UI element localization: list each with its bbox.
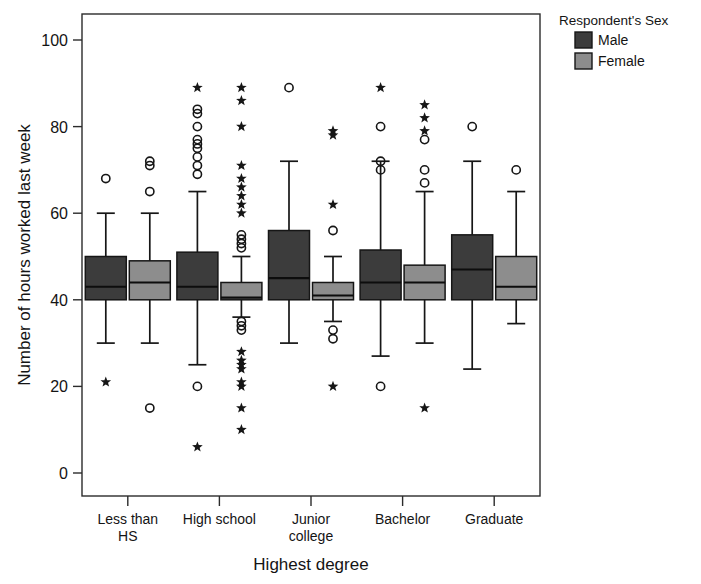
- outlier-circle: [329, 326, 337, 334]
- extreme-outlier-star: [100, 376, 111, 386]
- extreme-outlier-star: [328, 199, 339, 209]
- legend-title: Respondent's Sex: [559, 13, 668, 28]
- x-category-label: HS: [118, 528, 137, 544]
- extreme-outlier-star: [236, 424, 247, 434]
- box-body: [313, 282, 354, 299]
- boxplot-figure: 020406080100Less thanHSHigh schoolJunior…: [0, 0, 701, 584]
- outlier-circle: [468, 123, 476, 131]
- boxplot-box: [85, 174, 126, 386]
- extreme-outlier-star: [328, 381, 339, 391]
- box-body: [177, 252, 218, 300]
- outlier-circle: [146, 187, 154, 195]
- y-axis-title: Number of hours worked last week: [15, 124, 34, 386]
- extreme-outlier-star: [236, 95, 247, 105]
- extreme-outlier-star: [236, 182, 247, 192]
- boxplot-box: [496, 166, 537, 324]
- extreme-outlier-star: [236, 160, 247, 170]
- extreme-outlier-star: [236, 190, 247, 200]
- boxplot-box: [129, 157, 170, 412]
- legend-swatch-male: [575, 32, 592, 48]
- y-tick-label: 40: [50, 292, 68, 309]
- outlier-circle: [421, 166, 429, 174]
- y-tick-label: 20: [50, 378, 68, 395]
- outlier-circle: [193, 153, 201, 161]
- extreme-outlier-star: [375, 82, 386, 92]
- extreme-outlier-star: [236, 199, 247, 209]
- boxplot-box: [269, 84, 310, 344]
- box-body: [129, 261, 170, 300]
- extreme-outlier-star: [328, 130, 339, 140]
- extreme-outlier-star: [236, 121, 247, 131]
- x-axis-title: Highest degree: [253, 555, 368, 574]
- outlier-circle: [329, 335, 337, 343]
- outlier-circle: [193, 170, 201, 178]
- extreme-outlier-star: [192, 82, 203, 92]
- y-tick-label: 60: [50, 205, 68, 222]
- outlier-circle: [193, 161, 201, 169]
- extreme-outlier-star: [236, 173, 247, 183]
- outlier-circle: [193, 123, 201, 131]
- boxplot-box: [404, 99, 445, 412]
- boxplot-box: [221, 82, 262, 434]
- boxplot-box: [313, 125, 354, 391]
- outlier-circle: [102, 174, 110, 182]
- x-category-label: Junior: [292, 511, 330, 527]
- boxplot-box: [360, 82, 401, 390]
- extreme-outlier-star: [236, 363, 247, 373]
- x-category-label: High school: [183, 511, 256, 527]
- extreme-outlier-star: [419, 112, 430, 122]
- legend-label-female: Female: [598, 53, 645, 69]
- box-body: [452, 235, 493, 300]
- outlier-circle: [146, 404, 154, 412]
- legend-swatch-female: [575, 53, 592, 69]
- boxplot-box: [452, 123, 493, 370]
- y-tick-label: 80: [50, 119, 68, 136]
- box-body: [496, 257, 537, 300]
- outlier-circle: [512, 166, 520, 174]
- box-body: [269, 231, 310, 300]
- box-body: [360, 250, 401, 300]
- legend-label-male: Male: [598, 32, 629, 48]
- outlier-circle: [377, 382, 385, 390]
- y-tick-label: 0: [59, 465, 68, 482]
- outlier-circle: [329, 226, 337, 234]
- extreme-outlier-star: [192, 441, 203, 451]
- outlier-circle: [193, 382, 201, 390]
- extreme-outlier-star: [419, 402, 430, 412]
- extreme-outlier-star: [236, 346, 247, 356]
- extreme-outlier-star: [236, 381, 247, 391]
- y-tick-label: 100: [41, 32, 68, 49]
- extreme-outlier-star: [236, 208, 247, 218]
- legend: Respondent's SexMaleFemale: [559, 13, 668, 69]
- x-category-label: Bachelor: [375, 511, 431, 527]
- outlier-circle: [421, 179, 429, 187]
- outlier-circle: [421, 135, 429, 143]
- x-category-label: college: [289, 528, 334, 544]
- boxplot-box: [177, 82, 218, 452]
- extreme-outlier-star: [236, 82, 247, 92]
- box-body: [85, 257, 126, 300]
- outlier-circle: [285, 84, 293, 92]
- extreme-outlier-star: [419, 99, 430, 109]
- extreme-outlier-star: [419, 125, 430, 135]
- x-category-label: Less than: [97, 511, 158, 527]
- outlier-circle: [377, 123, 385, 131]
- extreme-outlier-star: [236, 402, 247, 412]
- x-category-label: Graduate: [465, 511, 524, 527]
